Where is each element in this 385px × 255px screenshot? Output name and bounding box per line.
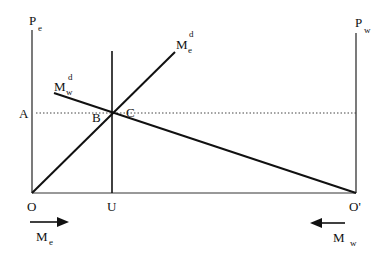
me-demand-label: M (176, 38, 188, 51)
mw-demand-label: M (54, 80, 66, 93)
origin-right-label: O' (349, 200, 361, 213)
origin-left-label: O (27, 200, 36, 213)
left-axis-subscript: e (38, 24, 42, 33)
me-demand-curve (32, 52, 175, 193)
mw-demand-subscript: w (66, 88, 73, 97)
mw-arrow-subscript: w (350, 239, 357, 248)
right-axis-subscript: w (364, 26, 371, 35)
point-c-label: C (126, 106, 135, 119)
me-demand-superscript: d (189, 30, 194, 39)
point-a-label: A (19, 107, 28, 120)
me-arrow-subscript: e (49, 238, 53, 247)
mw-demand-curve (54, 93, 356, 193)
me-arrow-head-icon (57, 217, 69, 227)
me-arrow-label: M (36, 230, 48, 243)
u-marker-label: U (107, 200, 116, 213)
mw-arrow-label: M (333, 231, 345, 244)
mw-demand-superscript: d (68, 73, 73, 82)
right-axis-label: P (355, 16, 362, 29)
me-demand-subscript: e (188, 46, 192, 55)
point-b-label: B (92, 111, 101, 124)
left-axis-label: P (29, 14, 36, 27)
mw-arrow-head-icon (310, 218, 322, 228)
